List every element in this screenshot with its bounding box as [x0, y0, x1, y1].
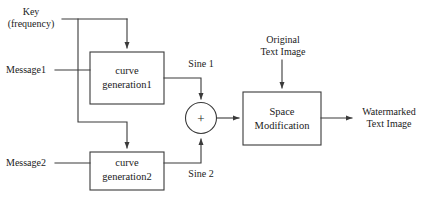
watermark-block-diagram: Key (frequency) Message1 Message2 curve … [0, 0, 423, 206]
space-modification-label-line2: Modification [243, 119, 321, 132]
original-text-image-label-line1: Original [248, 34, 318, 46]
key-label-line2: (frequency) [2, 18, 60, 30]
sine1-line [164, 78, 201, 99]
curve-generation-1-label-line2: generation1 [90, 78, 164, 91]
sine1-label: Sine 1 [176, 58, 226, 70]
watermarked-text-image-label-line2: Text Image [356, 118, 422, 130]
original-text-image-label-line2: Text Image [246, 46, 320, 58]
sine2-line [164, 139, 201, 163]
message1-label: Message1 [6, 64, 56, 76]
sine2-label: Sine 2 [176, 168, 226, 180]
key-label-line1: Key [2, 6, 60, 18]
summing-junction-plus-symbol: + [191, 112, 211, 125]
message2-label: Message2 [6, 157, 58, 169]
watermarked-text-image-label-line1: Watermarked [356, 106, 422, 118]
space-modification-label-line1: Space [243, 105, 321, 118]
curve-generation-2-label-line2: generation2 [90, 170, 164, 183]
curve-generation-2-label-line1: curve [90, 156, 164, 169]
curve-generation-1-label-line1: curve [90, 64, 164, 77]
